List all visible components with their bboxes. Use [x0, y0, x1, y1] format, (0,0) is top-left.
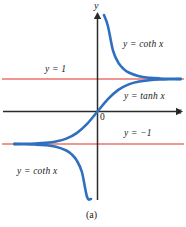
hyperbolic-functions-figure: y x 0 y = coth x y = tanh x y = 1 y = −1…	[0, 0, 186, 227]
curve-label-coth-lower: y = coth x	[17, 167, 57, 177]
y-axis-label: y	[94, 1, 99, 11]
asymptote-label-y-equals-1: y = 1	[45, 65, 66, 75]
figure-caption: (a)	[86, 209, 97, 220]
curve-label-tanh: y = tanh x	[124, 92, 165, 102]
y-axis-arrowhead	[94, 12, 101, 19]
origin-label: 0	[100, 113, 105, 123]
asymptote-label-y-equals-minus-1: y = −1	[124, 129, 152, 139]
curve-label-coth-upper: y = coth x	[123, 40, 163, 50]
x-axis-label: x	[177, 106, 182, 116]
plot-canvas	[0, 0, 186, 227]
